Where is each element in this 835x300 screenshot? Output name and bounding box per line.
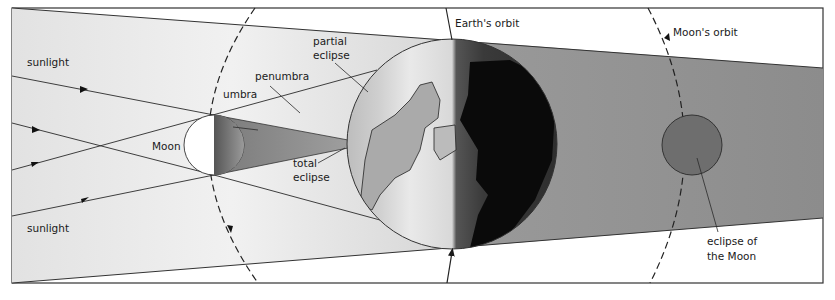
label-sunlight-bottom: sunlight [27,222,69,234]
label-total-eclipse-line1: total [293,157,317,169]
label-penumbra: penumbra [255,70,309,82]
earth [347,39,557,249]
eclipse-diagram: sunlight sunlight Moon umbra penumbra pa… [0,0,835,300]
label-earths-orbit: Earth's orbit [455,17,519,29]
label-partial-eclipse-line1: partial [313,35,347,47]
label-partial-eclipse-line2: eclipse [313,49,350,61]
label-total-eclipse-line2: eclipse [293,171,330,183]
moon [184,115,244,175]
label-eclipse-of-moon-line2: the Moon [707,250,756,262]
label-moon: Moon [152,140,181,152]
label-umbra: umbra [223,88,257,100]
label-moons-orbit: Moon's orbit [673,26,738,38]
label-eclipse-of-moon-line1: eclipse of [707,235,757,247]
eclipsed-moon [662,115,722,175]
label-sunlight-top: sunlight [27,56,69,68]
